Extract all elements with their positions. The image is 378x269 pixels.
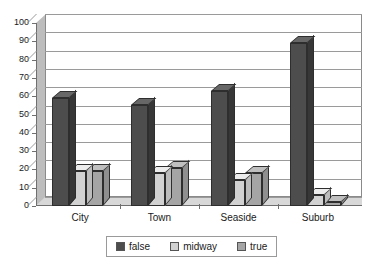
legend-swatch-false	[116, 242, 125, 251]
x-axis-label-seaside: Seaside	[199, 212, 279, 224]
legend-item-true[interactable]: true	[237, 241, 267, 252]
bar-seaside-false	[211, 91, 228, 206]
bar-front-face	[290, 43, 307, 206]
x-axis-label-city: City	[40, 212, 120, 224]
bar-chart: 0102030405060708090100 CityTownSeasideSu…	[0, 0, 378, 269]
x-axis-tick	[278, 204, 279, 209]
y-axis-tick	[32, 206, 36, 207]
bar-suburb-false	[290, 43, 307, 206]
legend-swatch-true	[237, 242, 246, 251]
x-axis-tick	[199, 204, 200, 209]
bar-side-face	[228, 82, 235, 206]
bar-front-face	[131, 105, 148, 206]
bars-layer	[36, 14, 362, 206]
legend-item-false[interactable]: false	[116, 241, 150, 252]
legend-label-false: false	[129, 241, 150, 252]
bar-side-face	[148, 97, 155, 206]
x-axis-label-town: Town	[119, 212, 199, 224]
bar-city-false	[52, 98, 69, 206]
bar-front-face	[52, 98, 69, 206]
legend-swatch-midway	[170, 242, 179, 251]
x-axis-label-suburb: Suburb	[278, 212, 358, 224]
y-axis: 0102030405060708090100	[0, 0, 36, 269]
chart-legend: falsemidwaytrue	[106, 236, 277, 257]
x-axis-labels: CityTownSeasideSuburb	[36, 208, 362, 224]
bar-town-false	[131, 105, 148, 206]
bar-front-face	[211, 91, 228, 206]
legend-label-true: true	[250, 241, 267, 252]
bar-side-face	[69, 90, 76, 206]
legend-label-midway: midway	[183, 241, 217, 252]
x-axis-tick	[120, 204, 121, 209]
bar-side-face	[307, 35, 314, 206]
legend-item-midway[interactable]: midway	[170, 241, 217, 252]
